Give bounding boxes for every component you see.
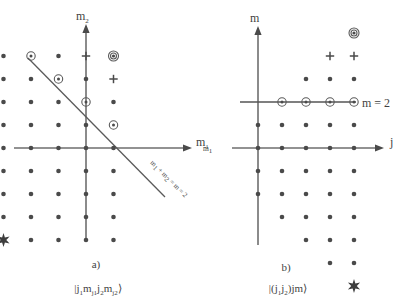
star-marker	[0, 233, 10, 247]
panel-a-constraint-line	[28, 58, 165, 197]
panel-a-ket-label: |j1mj1j2mj2⟩	[74, 282, 121, 297]
panel-b-x-axis-arrow	[375, 144, 384, 151]
state-dot	[280, 169, 285, 174]
panel-a-x-axis-arrow	[183, 144, 192, 151]
state-dot	[1, 100, 6, 105]
panel-b-axes	[232, 26, 384, 245]
state-dot	[304, 146, 309, 151]
state-dot	[352, 261, 357, 266]
state-dot	[1, 215, 6, 220]
panel-a-y-axis-arrow	[82, 24, 89, 33]
state-dot	[56, 192, 61, 197]
panel-a-line-label-group: m1 + m2 = m = 2	[147, 159, 189, 201]
state-dot	[111, 146, 116, 151]
panel-a-line-label: m1 + m2 = m = 2	[147, 159, 189, 201]
state-dot	[1, 169, 6, 174]
state-dot	[280, 123, 285, 128]
state-dot	[29, 192, 34, 197]
state-dot	[1, 77, 6, 82]
state-dot	[56, 215, 61, 220]
state-dot	[256, 123, 261, 128]
state-dot	[304, 123, 309, 128]
panel-a-axes	[14, 24, 192, 238]
state-dot	[111, 100, 116, 105]
panel-b-y-axis-arrow	[254, 26, 261, 35]
state-dot	[352, 215, 357, 220]
circled-state-dot-center	[30, 55, 33, 58]
circled-state-dot-center	[305, 101, 308, 104]
panel-b-ket-label: |(j1j2)jm⟩	[269, 282, 307, 297]
state-dot	[56, 123, 61, 128]
state-dot	[111, 215, 116, 220]
figure-container: m2 m1 m1 + m2 = m = 2 a) |j1mj1j2mj2⟩	[0, 0, 414, 306]
state-dot	[29, 100, 34, 105]
circled-state-dot-center	[329, 101, 332, 104]
panel-b-y-axis-label: m	[250, 11, 260, 25]
state-dot	[304, 192, 309, 197]
state-dot	[328, 238, 333, 243]
state-dot	[352, 192, 357, 197]
star-marker	[348, 279, 360, 293]
state-dot	[56, 169, 61, 174]
state-dot	[328, 215, 333, 220]
state-dot	[29, 146, 34, 151]
circled-state-dot-center	[281, 101, 284, 104]
circled-state-dot-center	[57, 78, 60, 81]
state-dot	[304, 215, 309, 220]
state-dot	[56, 238, 61, 243]
panel-b-edge-label: m1	[203, 144, 213, 155]
panel-b-caption: b)	[281, 261, 291, 274]
state-dot	[56, 54, 61, 59]
state-dot	[84, 123, 89, 128]
state-dot	[29, 169, 34, 174]
state-dot	[1, 146, 6, 151]
circled-state-dot-center	[112, 124, 115, 127]
state-dot	[29, 238, 34, 243]
panel-a: m2 m1 m1 + m2 = m = 2 a) |j1mj1j2mj2⟩	[0, 9, 209, 297]
state-dot	[29, 77, 34, 82]
state-dot	[256, 192, 261, 197]
state-dot	[352, 238, 357, 243]
state-dot	[84, 238, 89, 243]
panel-b-x-axis-label: j	[389, 135, 393, 149]
state-dot	[84, 146, 89, 151]
panel-a-markers	[0, 51, 118, 247]
circled-state-dot-center	[353, 101, 356, 104]
state-dot	[352, 123, 357, 128]
state-dot	[328, 192, 333, 197]
state-dot	[1, 123, 6, 128]
double-circled-dot-center	[352, 31, 355, 34]
state-dot	[84, 77, 89, 82]
state-dot	[256, 169, 261, 174]
panel-a-caption: a)	[92, 258, 101, 271]
state-dot	[304, 77, 309, 82]
state-dot	[328, 261, 333, 266]
state-dot	[56, 146, 61, 151]
state-dot	[111, 238, 116, 243]
state-dot	[84, 215, 89, 220]
state-dot	[84, 169, 89, 174]
state-dot	[280, 192, 285, 197]
panel-b-m-line-label: m = 2	[362, 96, 390, 110]
state-dot	[1, 54, 6, 59]
state-dot	[328, 77, 333, 82]
state-dot	[1, 192, 6, 197]
state-dot	[304, 169, 309, 174]
state-dot	[29, 215, 34, 220]
state-dot	[328, 123, 333, 128]
state-dot	[29, 123, 34, 128]
state-dot	[280, 215, 285, 220]
circled-state-dot-center	[85, 101, 88, 104]
panel-b-markers	[256, 28, 360, 293]
panel-a-y-axis-label: m2	[76, 9, 89, 25]
figure-svg: m2 m1 m1 + m2 = m = 2 a) |j1mj1j2mj2⟩	[0, 0, 414, 306]
state-dot	[56, 100, 61, 105]
state-dot	[352, 169, 357, 174]
state-dot	[328, 146, 333, 151]
state-dot	[111, 169, 116, 174]
state-dot	[352, 146, 357, 151]
state-dot	[352, 77, 357, 82]
panel-b: m j m = 2 m1 b) |(j1j2)jm⟩	[203, 11, 393, 297]
state-dot	[256, 146, 261, 151]
double-circled-dot-center	[112, 54, 115, 57]
